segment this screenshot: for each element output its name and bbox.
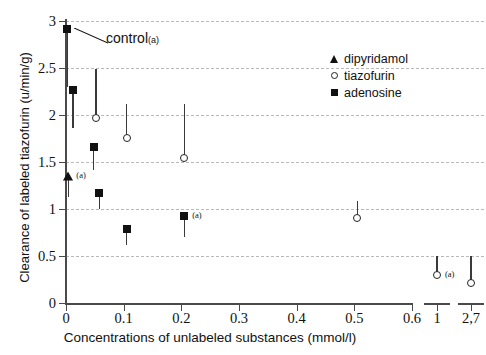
- x-axis-line: [65, 303, 413, 305]
- y-tick-label: 1: [49, 201, 56, 218]
- gridline: [66, 115, 484, 116]
- control-annotation-label: control: [106, 30, 148, 46]
- filled-square-icon: [331, 89, 338, 96]
- x-tick-label: 0.1: [115, 310, 133, 327]
- legend-item-tiazofurin: tiazofurin: [327, 67, 408, 84]
- error-bar: [184, 104, 185, 159]
- legend-marker: [327, 72, 341, 79]
- gridline: [66, 209, 484, 210]
- gridline: [66, 162, 484, 163]
- circle-marker: [353, 214, 361, 222]
- x-tick-label: 0.4: [288, 310, 306, 327]
- y-tick-label: 0: [49, 295, 56, 312]
- x-axis-title: Concentrations of unlabeled substances (…: [0, 330, 420, 345]
- square-marker: [95, 189, 103, 197]
- legend-label: dipyridamol: [344, 52, 408, 66]
- triangle-marker: [63, 172, 73, 181]
- legend-marker: [327, 55, 341, 63]
- square-marker: [63, 25, 71, 33]
- square-marker: [69, 86, 77, 94]
- x-tick-label: 0: [62, 310, 69, 327]
- circle-marker: [180, 154, 188, 162]
- legend-marker: [327, 89, 341, 96]
- square-marker: [123, 225, 131, 233]
- circle-marker: [433, 271, 441, 279]
- x-tick-label: 0.2: [172, 310, 190, 327]
- y-tick-label: 0.5: [38, 248, 56, 265]
- error-bar: [67, 29, 68, 87]
- y-tick-label: 2: [49, 107, 56, 124]
- x-tick-label: 0.5: [345, 310, 363, 327]
- legend-label: adenosine: [344, 86, 402, 100]
- square-marker: [90, 143, 98, 151]
- circle-marker: [467, 279, 475, 287]
- open-circle-icon: [331, 72, 338, 79]
- x-tick-label: 0.6: [403, 310, 421, 327]
- control-leader-line: [74, 28, 108, 44]
- square-marker: [180, 212, 188, 220]
- y-tick-label: 2.5: [38, 60, 56, 77]
- control-annotation-note: (a): [148, 35, 159, 45]
- data-point-note: (a): [445, 269, 454, 279]
- y-tick-label: 1.5: [38, 154, 56, 171]
- data-point-note: (a): [192, 210, 201, 220]
- error-bar: [95, 69, 96, 118]
- error-bar: [126, 104, 127, 138]
- control-annotation: control(a): [106, 30, 159, 46]
- legend-item-adenosine: adenosine: [327, 84, 408, 101]
- chart-legend: dipyridamoltiazofurinadenosine: [327, 50, 408, 101]
- y-tick-label: 3: [49, 13, 56, 30]
- chart-figure: Clearance of labeled tiazofurin (u/min/g…: [0, 0, 486, 355]
- x-tick-label: 0.3: [230, 310, 248, 327]
- gridline: [66, 256, 484, 257]
- data-point-note: (a): [76, 170, 85, 180]
- legend-item-dipyridamol: dipyridamol: [327, 50, 408, 67]
- legend-label: tiazofurin: [344, 69, 395, 83]
- circle-marker: [123, 134, 131, 142]
- x-tick-label: 2,7: [462, 310, 480, 327]
- gridline: [66, 21, 484, 22]
- error-bar: [72, 90, 73, 129]
- circle-marker: [92, 114, 100, 122]
- x-axis-break-segment-2: [458, 303, 484, 305]
- gridline: [66, 68, 484, 69]
- x-axis-break-segment-1: [424, 303, 450, 305]
- x-tick-label: 1: [433, 310, 440, 327]
- y-tick-label-group: 00.511.522.53: [0, 0, 56, 355]
- filled-triangle-icon: [330, 55, 338, 63]
